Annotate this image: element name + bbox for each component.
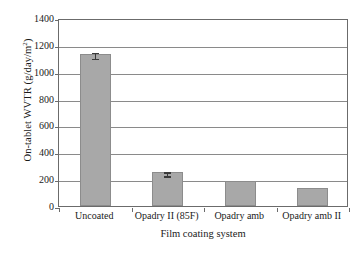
y-tick-mark bbox=[55, 47, 59, 48]
y-tick-mark bbox=[55, 101, 59, 102]
y-tick-label: 1000 bbox=[12, 68, 54, 78]
error-bar-cap bbox=[92, 53, 99, 54]
x-tick-mark bbox=[349, 208, 350, 212]
y-tick-label: 200 bbox=[12, 175, 54, 185]
bar bbox=[80, 54, 111, 206]
y-tick-label: 1200 bbox=[12, 41, 54, 51]
y-tick-label: 1400 bbox=[12, 14, 54, 24]
x-axis-title: Film coating system bbox=[58, 228, 348, 239]
error-bar-cap bbox=[164, 172, 171, 173]
x-tick-label: Opadry amb bbox=[203, 210, 276, 222]
y-tick-mark bbox=[55, 181, 59, 182]
y-tick-mark bbox=[55, 74, 59, 75]
bar bbox=[297, 188, 328, 206]
y-tick-mark bbox=[55, 20, 59, 21]
y-tick-label: 600 bbox=[12, 121, 54, 131]
error-bar-cap bbox=[164, 176, 171, 177]
y-tick-label: 800 bbox=[12, 95, 54, 105]
x-tick-label: Opadry amb II bbox=[276, 210, 349, 222]
bar bbox=[225, 181, 256, 206]
x-tick-label: Opadry II (85F) bbox=[131, 210, 204, 222]
y-tick-mark bbox=[55, 127, 59, 128]
y-tick-label: 400 bbox=[12, 148, 54, 158]
plot-area bbox=[58, 19, 348, 207]
y-tick-mark bbox=[55, 154, 59, 155]
gridline bbox=[59, 47, 347, 48]
y-tick-label: 0 bbox=[12, 202, 54, 212]
chart-figure: On-tablet WVTR (g/day/m2) Film coating s… bbox=[0, 0, 364, 254]
x-tick-label: Uncoated bbox=[58, 210, 131, 222]
error-bar-cap bbox=[92, 59, 99, 60]
